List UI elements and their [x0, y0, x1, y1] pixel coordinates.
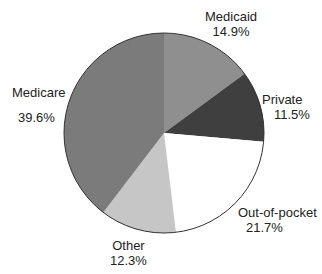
label-out-of-pocket-name: Out-of-pocket [238, 205, 317, 220]
label-medicare: Medicare 39.6% [12, 85, 65, 125]
label-out-of-pocket: Out-of-pocket 21.7% [238, 205, 317, 235]
label-other: Other 12.3% [110, 238, 147, 268]
label-private-value: 11.5% [262, 107, 310, 122]
label-other-value: 12.3% [110, 253, 147, 268]
label-private: Private 11.5% [262, 92, 310, 122]
label-private-name: Private [262, 92, 310, 107]
label-medicaid-name: Medicaid [205, 9, 257, 24]
label-medicare-name: Medicare [12, 85, 65, 100]
label-other-name: Other [110, 238, 147, 253]
label-out-of-pocket-value: 21.7% [238, 220, 317, 235]
label-medicaid-value: 14.9% [205, 24, 257, 39]
label-medicaid: Medicaid 14.9% [205, 9, 257, 39]
label-medicare-value: 39.6% [12, 100, 65, 125]
